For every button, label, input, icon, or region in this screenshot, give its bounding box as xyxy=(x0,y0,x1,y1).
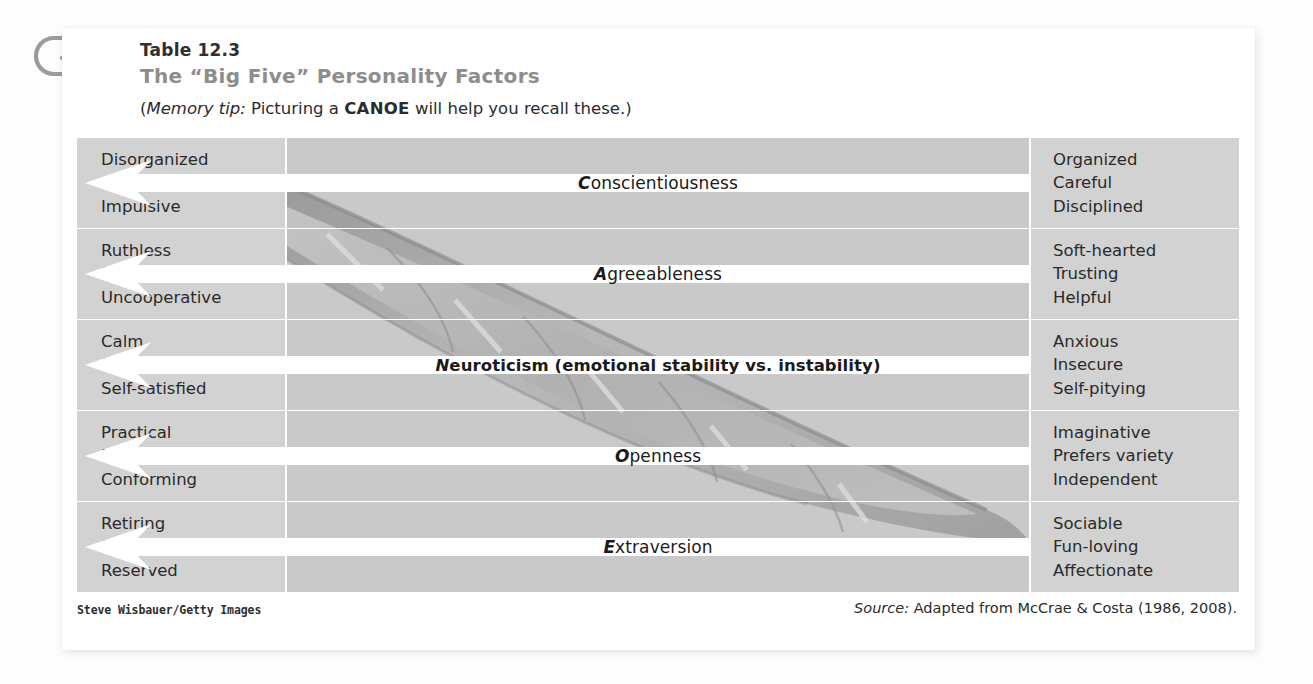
big-five-table: Disorganized Careless Impulsive xyxy=(77,138,1239,593)
trait-item: Sociable xyxy=(1053,512,1153,535)
trait-item: Trusting xyxy=(1053,262,1156,285)
factor-lead-letter: E xyxy=(603,537,615,557)
source-note: Source: Adapted from McCrae & Costa (198… xyxy=(854,600,1237,616)
source-label: Source: xyxy=(854,600,909,616)
row-high-traits-cell: Soft-hearted Trusting Helpful xyxy=(1031,229,1239,319)
factor-rest: xtraversion xyxy=(615,537,713,557)
trait-item: Independent xyxy=(1053,468,1173,491)
trait-item: Self-pitying xyxy=(1053,377,1146,400)
factor-lead-letter: O xyxy=(615,446,630,466)
row-high-traits-cell: Imaginative Prefers variety Independent xyxy=(1031,411,1239,501)
factor-lead-letter: C xyxy=(578,173,591,193)
row-high-traits: Anxious Insecure Self-pitying xyxy=(1053,330,1146,400)
trait-item: Insecure xyxy=(1053,353,1146,376)
row-high-traits: Sociable Fun-loving Affectionate xyxy=(1053,512,1153,582)
row-high-traits-cell: Sociable Fun-loving Affectionate xyxy=(1031,502,1239,592)
memory-tip: (Memory tip: Picturing a CANOE will help… xyxy=(140,98,1140,120)
memory-tip-label: Memory tip: xyxy=(146,99,245,118)
table-footer: Steve Wisbauer/Getty Images Source: Adap… xyxy=(77,600,1237,634)
page-title: The “Big Five” Personality Factors xyxy=(140,62,1140,91)
table-row: Retiring Sober Reserved xyxy=(77,502,1239,592)
trait-item: Soft-hearted xyxy=(1053,239,1156,262)
row-high-traits: Soft-hearted Trusting Helpful xyxy=(1053,239,1156,309)
trait-item: Imaginative xyxy=(1053,421,1173,444)
table-card: Table 12.3 The “Big Five” Personality Fa… xyxy=(62,28,1255,650)
table-number: Table 12.3 xyxy=(140,40,1140,61)
memory-tip-before: Picturing a xyxy=(246,99,344,118)
trait-item: Affectionate xyxy=(1053,559,1153,582)
factor-lead-letter: N xyxy=(435,356,449,375)
factor-rest: euroticism (emotional stability vs. inst… xyxy=(449,356,880,375)
table-row: Ruthless Suspicious Uncooperative xyxy=(77,229,1239,319)
factor-rest: onscientiousness xyxy=(591,173,738,193)
row-high-traits: Imaginative Prefers variety Independent xyxy=(1053,421,1173,491)
trait-item: Prefers variety xyxy=(1053,444,1173,467)
trait-item: Helpful xyxy=(1053,286,1156,309)
row-high-traits-cell: Anxious Insecure Self-pitying xyxy=(1031,320,1239,410)
trait-item: Fun-loving xyxy=(1053,535,1153,558)
photo-credit: Steve Wisbauer/Getty Images xyxy=(77,603,261,617)
memory-tip-after: will help you recall these.) xyxy=(410,99,632,118)
table-header: Table 12.3 The “Big Five” Personality Fa… xyxy=(140,40,1140,121)
row-high-traits-cell: Organized Careful Disciplined xyxy=(1031,138,1239,228)
table-row: Disorganized Careless Impulsive xyxy=(77,138,1239,228)
row-high-traits: Organized Careful Disciplined xyxy=(1053,148,1143,218)
source-text: Adapted from McCrae & Costa (1986, 2008)… xyxy=(909,600,1237,616)
trait-item: Anxious xyxy=(1053,330,1146,353)
factor-lead-letter: A xyxy=(594,264,607,284)
trait-item: Disciplined xyxy=(1053,195,1143,218)
trait-item: Careful xyxy=(1053,171,1143,194)
memory-tip-acronym: CANOE xyxy=(344,99,410,118)
page-root: Table 12.3 The “Big Five” Personality Fa… xyxy=(0,0,1313,684)
factor-rest: penness xyxy=(629,446,701,466)
trait-item: Organized xyxy=(1053,148,1143,171)
table-row: Calm Secure Self-satisfied xyxy=(77,320,1239,410)
factor-rest: greeableness xyxy=(607,264,722,284)
table-row: Practical Prefers routine Conforming xyxy=(77,411,1239,501)
